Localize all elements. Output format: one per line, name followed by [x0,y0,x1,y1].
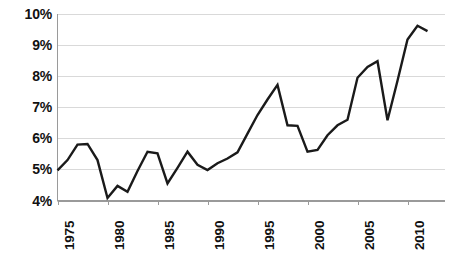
y-tick-label: 8% [2,69,52,83]
x-tick-label: 1995 [263,221,277,250]
x-tick-label: 1990 [213,221,227,250]
x-tick-label: 1975 [63,221,77,250]
y-tick-label: 5% [2,162,52,176]
y-tick-label: 10% [2,7,52,21]
x-tick-label: 1985 [163,221,177,250]
data-series-line [58,26,428,198]
y-tick-label: 9% [2,38,52,52]
y-tick-label: 4% [2,194,52,208]
chart-plot-area [0,0,457,258]
x-tick-label: 2005 [363,221,377,250]
y-tick-label: 7% [2,100,52,114]
x-tick-label: 2010 [413,221,427,250]
x-tick-label: 1980 [113,221,127,250]
y-tick-label: 6% [2,131,52,145]
gridlines [58,15,446,202]
line-chart: 10%9%8%7%6%5%4% 197519801985199019952000… [0,0,457,258]
x-tick-label: 2000 [313,221,327,250]
